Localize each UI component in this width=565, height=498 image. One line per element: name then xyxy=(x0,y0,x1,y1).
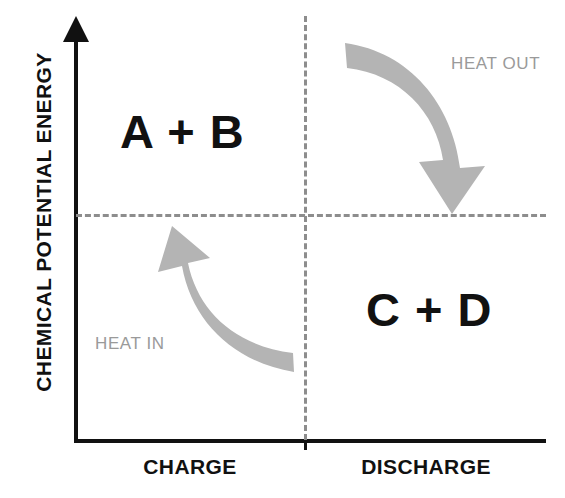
up-arrowhead-icon xyxy=(63,16,89,42)
heat-in-arrow-icon xyxy=(158,226,294,372)
x-axis-label-discharge: DISCHARGE xyxy=(306,455,546,479)
x-axis-label-charge: CHARGE xyxy=(74,455,306,479)
heat-in-label: HEAT IN xyxy=(95,334,165,354)
heat-out-label: HEAT OUT xyxy=(451,54,540,74)
diagram-canvas: CHEMICAL POTENTIAL ENERGY CHARGE DISCHAR… xyxy=(0,0,565,498)
horizontal-divider-dashed xyxy=(76,214,546,217)
species-label-products: C + D xyxy=(366,282,492,337)
y-axis-title: CHEMICAL POTENTIAL ENERGY xyxy=(32,12,56,432)
x-axis-line xyxy=(74,439,546,443)
y-axis-line xyxy=(74,36,78,442)
vertical-divider-dashed xyxy=(304,16,307,440)
species-label-reactants: A + B xyxy=(120,104,245,159)
heat-flow-arrows xyxy=(0,0,565,498)
x-axis-midpoint-tick xyxy=(304,439,307,450)
